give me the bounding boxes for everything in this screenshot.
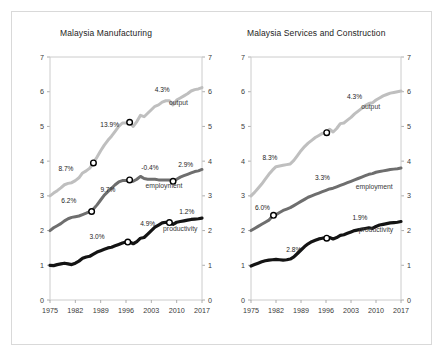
y-tick-label-right: 6: [208, 87, 212, 96]
data-point-marker-productivity: [324, 235, 330, 241]
y-tick-label-right: 5: [208, 122, 212, 131]
growth-rate-label-output: 8.3%: [262, 154, 277, 161]
y-tick-label-left: 4: [241, 157, 245, 166]
growth-rate-label-employment: 2.9%: [178, 161, 193, 168]
growth-rate-label-employment: 9.7%: [100, 186, 115, 193]
y-tick-label-left: 4: [40, 157, 44, 166]
y-tick-label-right: 7: [407, 53, 411, 62]
growth-rate-label-productivity: 3.0%: [90, 233, 105, 240]
x-tick-label: 1989: [293, 306, 309, 315]
data-point-marker-output: [324, 130, 330, 136]
y-tick-label-left: 0: [40, 296, 44, 305]
x-tick-label: 2010: [368, 306, 384, 315]
y-tick-label-left: 3: [40, 191, 44, 200]
series-label-employment: employment: [145, 182, 182, 190]
x-tick-label: 1996: [318, 306, 334, 315]
x-tick-label: 2003: [143, 306, 159, 315]
y-tick-label-left: 0: [241, 296, 245, 305]
growth-rate-label-employment: 6.2%: [61, 197, 76, 204]
y-tick-label-left: 1: [241, 261, 245, 270]
figure-canvas: Malaysia Manufacturing 00112233445566771…: [0, 0, 445, 357]
y-tick-label-right: 0: [208, 296, 212, 305]
series-label-employment: employment: [356, 183, 393, 191]
growth-rate-label-productivity: 2.8%: [286, 246, 301, 253]
x-tick-label: 1982: [268, 306, 284, 315]
data-point-marker-employment: [271, 213, 277, 219]
data-point-marker-productivity: [125, 239, 131, 245]
data-point-marker-output: [127, 119, 133, 125]
series-label-output: output: [361, 103, 380, 111]
growth-rate-label-productivity: 4.9%: [140, 220, 155, 227]
growth-rate-label-employment: 3.3%: [315, 174, 330, 181]
growth-rate-label-employment: -0.4%: [141, 164, 158, 171]
x-tick-label: 1989: [93, 306, 109, 315]
y-tick-label-left: 1: [40, 261, 44, 270]
growth-rate-label-output: 13.9%: [100, 121, 119, 128]
y-tick-label-left: 6: [241, 87, 245, 96]
x-tick-label: 1982: [67, 306, 83, 315]
growth-rate-label-productivity: 1.2%: [179, 208, 194, 215]
growth-rate-label-output: 4.3%: [347, 93, 362, 100]
y-tick-label-right: 6: [407, 87, 411, 96]
x-tick-label: 2017: [393, 306, 409, 315]
x-tick-label: 1975: [42, 306, 58, 315]
growth-rate-label-output: 4.3%: [155, 86, 170, 93]
y-tick-label-left: 5: [241, 122, 245, 131]
y-tick-label-left: 7: [40, 53, 44, 62]
x-tick-label: 1996: [118, 306, 134, 315]
series-label-productivity: productivity: [163, 225, 198, 233]
y-tick-label-left: 6: [40, 87, 44, 96]
x-tick-label: 2017: [194, 306, 210, 315]
series-label-productivity: productivity: [359, 226, 394, 234]
y-tick-label-left: 7: [241, 53, 245, 62]
x-tick-label: 2003: [343, 306, 359, 315]
growth-rate-label-output: 8.7%: [58, 165, 73, 172]
data-point-marker-employment: [127, 177, 133, 183]
x-tick-label: 1975: [243, 306, 259, 315]
series-label-output: output: [169, 99, 188, 107]
y-tick-label-right: 2: [208, 226, 212, 235]
growth-rate-label-productivity: 1.9%: [352, 214, 367, 221]
data-point-marker-employment: [89, 209, 95, 215]
y-tick-label-left: 2: [241, 226, 245, 235]
y-tick-label-right: 0: [407, 296, 411, 305]
plot-area-right: 0011223344556677197519821989199620032010…: [226, 12, 433, 346]
y-tick-label-right: 2: [407, 226, 411, 235]
chart-panel-services-construction: Malaysia Services and Construction 00112…: [226, 12, 433, 346]
y-tick-label-right: 3: [208, 191, 212, 200]
y-tick-label-left: 2: [40, 226, 44, 235]
y-tick-label-right: 7: [208, 53, 212, 62]
y-tick-label-right: 1: [407, 261, 411, 270]
growth-rate-label-employment: 6.0%: [255, 204, 270, 211]
y-tick-label-left: 3: [241, 191, 245, 200]
y-tick-label-right: 5: [407, 122, 411, 131]
x-tick-label: 2010: [169, 306, 185, 315]
y-tick-label-right: 1: [208, 261, 212, 270]
plot-area-left: 0011223344556677197519821989199620032010…: [12, 12, 226, 346]
chart-panel-manufacturing: Malaysia Manufacturing 00112233445566771…: [12, 12, 226, 346]
data-point-marker-output: [91, 160, 97, 166]
y-tick-label-left: 5: [40, 122, 44, 131]
y-tick-label-right: 4: [407, 157, 411, 166]
figure-frame: Malaysia Manufacturing 00112233445566771…: [11, 11, 432, 345]
y-tick-label-right: 3: [407, 191, 411, 200]
y-tick-label-right: 4: [208, 157, 212, 166]
